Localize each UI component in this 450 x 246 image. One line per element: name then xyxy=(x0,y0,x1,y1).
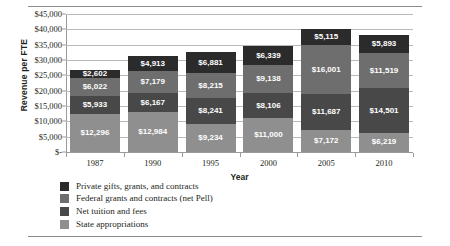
bar-segment[interactable]: $8,241 xyxy=(186,98,236,123)
bar-segment[interactable]: $5,933 xyxy=(70,96,120,114)
bar-segment[interactable]: $7,179 xyxy=(128,71,178,93)
bar-segment-value-label: $6,881 xyxy=(198,59,222,67)
y-axis-tick-label: $30,000 xyxy=(14,56,62,65)
bar-segment[interactable]: $6,167 xyxy=(128,93,178,112)
legend-label: State appropriations xyxy=(76,220,148,229)
bar-1995[interactable]: $6,881$8,215$8,241$9,234 xyxy=(186,52,236,152)
bar-segment[interactable]: $8,106 xyxy=(243,93,293,118)
plot-area: $2,602$6,022$5,933$12,296$4,913$7,179$6,… xyxy=(66,14,413,153)
bar-segment-value-label: $14,501 xyxy=(370,107,399,115)
y-axis-tick-labels: $45,000$40,000$35,000$30,000$25,000$20,0… xyxy=(14,14,62,153)
bar-segment-value-label: $5,933 xyxy=(83,101,107,109)
bar-segment[interactable]: $11,519 xyxy=(359,53,409,88)
bar-segment-value-label: $7,179 xyxy=(141,78,165,86)
x-axis-tick-mark xyxy=(240,153,241,157)
bottom-divider-rule xyxy=(28,236,422,237)
bar-segment[interactable]: $11,687 xyxy=(301,94,351,130)
bar-2005[interactable]: $5,115$16,001$11,687$7,172 xyxy=(301,29,351,152)
bar-segment[interactable]: $7,172 xyxy=(301,130,351,152)
legend-item[interactable]: Federal grants and contracts (net Pell) xyxy=(60,193,380,206)
bar-segment[interactable]: $5,115 xyxy=(301,29,351,45)
y-axis-tick-label: $25,000 xyxy=(14,71,62,80)
legend-label: Net tuition and fees xyxy=(76,207,147,216)
legend-color-swatch xyxy=(60,207,69,216)
bar-segment[interactable]: $14,501 xyxy=(359,88,409,132)
bar-segment-value-label: $6,022 xyxy=(83,83,107,91)
legend-color-swatch xyxy=(60,220,69,229)
y-axis-tick-label: $- xyxy=(14,148,62,157)
bar-segment-value-label: $12,984 xyxy=(138,128,167,136)
y-axis-tick-label: $20,000 xyxy=(14,86,62,95)
x-axis-tick-label: 1990 xyxy=(123,158,183,168)
x-axis-tick-mark xyxy=(355,153,356,157)
x-axis-tick-label: 1995 xyxy=(181,158,241,168)
y-axis-tick-label: $45,000 xyxy=(14,10,62,19)
bar-segment-value-label: $8,241 xyxy=(198,107,222,115)
y-axis-line xyxy=(66,14,67,153)
y-axis-tick-label: $10,000 xyxy=(14,117,62,126)
bar-segment[interactable]: $12,984 xyxy=(128,112,178,152)
bar-segment-value-label: $4,913 xyxy=(141,60,165,68)
bar-segment[interactable]: $9,138 xyxy=(243,65,293,93)
bar-segment[interactable]: $11,000 xyxy=(243,118,293,152)
bar-1987[interactable]: $2,602$6,022$5,933$12,296 xyxy=(70,70,120,152)
x-axis-tick-mark xyxy=(66,153,67,157)
y-axis-tick-label: $40,000 xyxy=(14,25,62,34)
legend-color-swatch xyxy=(60,182,69,191)
bar-1990[interactable]: $4,913$7,179$6,167$12,984 xyxy=(128,56,178,152)
bar-segment-value-label: $11,000 xyxy=(254,131,282,139)
bar-segment-value-label: $7,172 xyxy=(314,137,338,145)
gridline xyxy=(66,29,413,30)
bar-segment-value-label: $2,602 xyxy=(83,70,107,78)
bar-segment-value-label: $9,138 xyxy=(256,75,280,83)
legend-item[interactable]: Net tuition and fees xyxy=(60,205,380,218)
bar-segment-value-label: $11,687 xyxy=(312,108,340,116)
x-axis-tick-label: 2005 xyxy=(296,158,356,168)
bar-segment[interactable]: $16,001 xyxy=(301,45,351,94)
bar-segment-value-label: $12,296 xyxy=(80,129,109,137)
chart-legend: Private gifts, grants, and contractsFede… xyxy=(60,180,380,230)
bar-segment-value-label: $8,215 xyxy=(198,82,222,90)
bar-segment-value-label: $6,219 xyxy=(372,138,396,146)
bar-2010[interactable]: $5,893$11,519$14,501$6,219 xyxy=(359,35,409,152)
bar-segment-value-label: $6,339 xyxy=(256,52,280,60)
x-axis-tick-mark xyxy=(124,153,125,157)
x-axis-tick-mark xyxy=(413,153,414,157)
bar-segment[interactable]: $6,339 xyxy=(243,46,293,65)
x-axis-tick-label: 2010 xyxy=(354,158,414,168)
legend-item[interactable]: State appropriations xyxy=(60,218,380,231)
bar-segment-value-label: $5,893 xyxy=(372,40,396,48)
bar-segment-value-label: $8,106 xyxy=(256,102,280,110)
bar-segment-value-label: $16,001 xyxy=(312,66,341,74)
legend-color-swatch xyxy=(60,194,69,203)
bar-segment[interactable]: $6,881 xyxy=(186,52,236,73)
stacked-bar-chart: Revenue per FTE $45,000$40,000$35,000$30… xyxy=(0,14,450,159)
x-axis-tick-mark xyxy=(182,153,183,157)
bar-segment[interactable]: $2,602 xyxy=(70,70,120,78)
legend-label: Federal grants and contracts (net Pell) xyxy=(76,194,213,203)
top-divider-rule xyxy=(28,6,422,7)
x-axis-tick-label: 2000 xyxy=(238,158,298,168)
y-axis-tick-label: $15,000 xyxy=(14,102,62,111)
gridline xyxy=(66,14,413,15)
bar-segment[interactable]: $5,893 xyxy=(359,35,409,53)
bar-segment[interactable]: $6,022 xyxy=(70,78,120,96)
bar-segment-value-label: $5,115 xyxy=(314,33,338,41)
x-axis-tick-mark xyxy=(297,153,298,157)
y-axis-tick-label: $5,000 xyxy=(14,132,62,141)
bar-segment-value-label: $9,234 xyxy=(198,134,222,142)
x-axis-tick-label: 1987 xyxy=(65,158,125,168)
legend-label: Private gifts, grants, and contracts xyxy=(76,182,198,191)
legend-item[interactable]: Private gifts, grants, and contracts xyxy=(60,180,380,193)
bar-segment[interactable]: $8,215 xyxy=(186,73,236,98)
bar-2000[interactable]: $6,339$9,138$8,106$11,000 xyxy=(243,46,293,152)
bar-segment-value-label: $11,519 xyxy=(370,67,398,75)
bar-segment[interactable]: $6,219 xyxy=(359,133,409,152)
bar-segment-value-label: $6,167 xyxy=(141,99,165,107)
bar-segment[interactable]: $9,234 xyxy=(186,124,236,152)
bar-segment[interactable]: $12,296 xyxy=(70,114,120,152)
y-axis-tick-label: $35,000 xyxy=(14,40,62,49)
bar-segment[interactable]: $4,913 xyxy=(128,56,178,71)
